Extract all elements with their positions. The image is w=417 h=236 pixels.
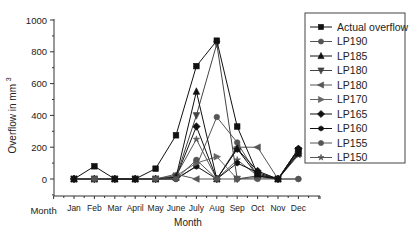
x-tick-label: Feb	[87, 203, 102, 213]
chart-series	[70, 38, 302, 183]
data-point-marker	[193, 88, 200, 95]
y-tick-label: 400	[31, 110, 47, 121]
data-point-marker	[255, 171, 261, 177]
data-point-marker	[92, 163, 98, 169]
series-lp165	[70, 123, 302, 183]
x-tick-label: Jan	[67, 203, 81, 213]
x-tick-label: Nov	[270, 203, 286, 213]
data-point-marker	[153, 166, 159, 172]
legend-label: LP180	[337, 64, 368, 76]
data-point-marker	[234, 124, 240, 130]
legend-label: LP185	[337, 50, 368, 62]
chart-axes: 02004006008001000MonthJanFebMarAprilMayJ…	[5, 15, 320, 229]
x-tick-label: Dec	[291, 203, 307, 213]
data-point-marker	[71, 176, 77, 182]
chart-legend: Actual overflowLP190LP185LP180LP180LP170…	[305, 13, 409, 163]
overflow-line-chart: 02004006008001000MonthJanFebMarAprilMayJ…	[0, 0, 417, 236]
data-point-marker	[132, 176, 138, 182]
data-point-marker	[193, 176, 200, 183]
x-tick-label: May	[148, 203, 165, 213]
y-tick-label: 800	[31, 46, 47, 57]
y-tick-label: 0	[42, 174, 47, 185]
data-point-marker	[173, 176, 179, 182]
x-tick-label: July	[189, 203, 205, 213]
data-point-marker	[112, 176, 118, 182]
data-point-marker	[318, 140, 323, 145]
data-point-marker	[296, 176, 302, 182]
x-tick-label: April	[127, 203, 144, 213]
x-tick-label: June	[167, 203, 186, 213]
x-tick-label: Mar	[107, 203, 122, 213]
x-first-label: Month	[30, 205, 56, 216]
x-tick-label: Sep	[230, 203, 245, 213]
data-point-marker	[214, 114, 220, 120]
data-point-marker	[296, 148, 302, 154]
data-point-marker	[193, 136, 199, 142]
data-point-marker	[275, 176, 281, 182]
legend-label: LP190	[337, 35, 368, 47]
series-line	[74, 92, 298, 179]
legend-label: LP170	[337, 93, 368, 105]
data-point-marker	[234, 176, 240, 182]
y-tick-label: 1000	[26, 15, 47, 26]
data-point-marker	[214, 176, 220, 182]
legend-label: LP155	[337, 137, 368, 149]
legend-label: Actual overflow	[337, 21, 409, 33]
legend-label: LP165	[337, 108, 368, 120]
data-point-marker	[193, 113, 200, 120]
legend-label: LP150	[337, 151, 368, 163]
data-point-marker	[214, 38, 220, 44]
x-tick-label: Aug	[209, 203, 224, 213]
y-axis-title: Overflow in mm 3	[5, 77, 18, 153]
legend-label: LP180	[337, 79, 368, 91]
data-point-marker	[254, 144, 261, 151]
x-axis-title: Month	[174, 217, 202, 228]
series-actual-overflow	[71, 38, 301, 182]
data-point-marker	[194, 157, 200, 163]
data-point-marker	[92, 176, 98, 182]
data-point-marker	[194, 63, 200, 69]
data-point-marker	[173, 132, 179, 138]
data-point-marker	[153, 176, 159, 182]
y-tick-label: 200	[31, 142, 47, 153]
data-point-marker	[319, 126, 324, 131]
data-point-marker	[318, 39, 323, 44]
legend-label: LP160	[337, 122, 368, 134]
data-point-marker	[318, 24, 323, 29]
data-point-marker	[214, 153, 221, 160]
x-tick-label: Oct	[251, 203, 265, 213]
y-tick-label: 600	[31, 78, 47, 89]
